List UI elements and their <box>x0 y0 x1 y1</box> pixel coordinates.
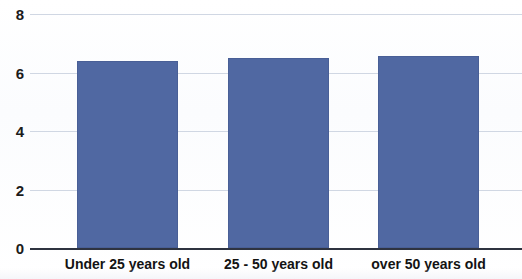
bar <box>228 58 329 248</box>
bar <box>378 56 479 248</box>
bar-series <box>0 0 522 279</box>
x-axis-tick-label: 25 - 50 years old <box>206 256 351 272</box>
x-axis-tick-label: over 50 years old <box>356 256 501 272</box>
bar-chart: 86420 Under 25 years old25 - 50 years ol… <box>0 0 522 279</box>
bar <box>77 61 178 248</box>
x-axis-tick-label: Under 25 years old <box>55 256 200 272</box>
x-axis: Under 25 years old25 - 50 years oldover … <box>0 252 522 279</box>
